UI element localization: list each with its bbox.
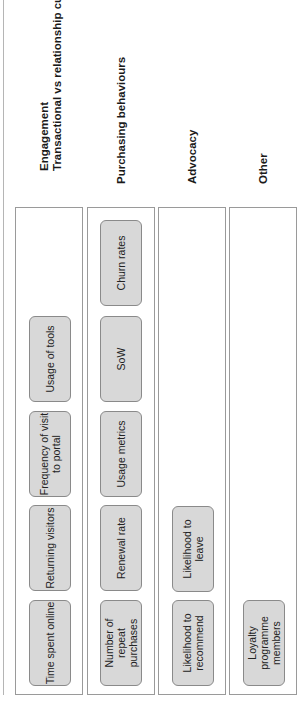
heading-other-title: Other: [257, 153, 270, 184]
metric-label: Returning visitors: [44, 506, 56, 590]
metric-box: Number of repeat purchases: [100, 600, 142, 686]
heading-advocacy: Advocacy: [177, 0, 207, 197]
metric-label: Time spent online: [44, 601, 56, 685]
metric-box: Likelihood to recommend: [172, 600, 214, 686]
metric-label: Loyalty programme members: [246, 611, 282, 675]
metric-label: Number of repeat purchases: [103, 613, 139, 673]
heading-other: Other: [248, 0, 278, 197]
metric-label: Churn rates: [115, 221, 127, 305]
metric-label: Frequency of visit to portal: [38, 412, 62, 496]
left-edge-line: [3, 0, 4, 695]
metric-box: SoW: [100, 316, 142, 402]
metric-box: Usage metrics: [100, 411, 142, 497]
heading-engagement-subtitle: Transactional vs relationship customer: [51, 0, 64, 171]
metric-label: Renewal rate: [115, 506, 127, 590]
metric-box: Likelihood to leave: [172, 506, 214, 592]
metric-label: Likelihood to leave: [181, 513, 205, 585]
metric-box: Returning visitors: [29, 505, 71, 591]
metric-label: SoW: [115, 317, 127, 401]
metric-label: Likelihood to recommend: [181, 607, 205, 679]
metric-box: Frequency of visit to portal: [29, 411, 71, 497]
heading-engagement: Engagement Transactional vs relationship…: [36, 0, 66, 197]
metric-box: Time spent online: [29, 600, 71, 686]
metric-box: Usage of tools: [29, 316, 71, 402]
metric-label: Usage metrics: [115, 412, 127, 496]
metric-label: Usage of tools: [44, 317, 56, 401]
heading-purchasing: Purchasing behaviours: [106, 0, 136, 197]
heading-advocacy-title: Advocacy: [186, 130, 199, 184]
metric-box: Loyalty programme members: [243, 600, 285, 686]
heading-engagement-title: Engagement: [38, 0, 51, 171]
heading-purchasing-title: Purchasing behaviours: [115, 57, 128, 184]
metric-box: Churn rates: [100, 220, 142, 306]
metric-box: Renewal rate: [100, 505, 142, 591]
